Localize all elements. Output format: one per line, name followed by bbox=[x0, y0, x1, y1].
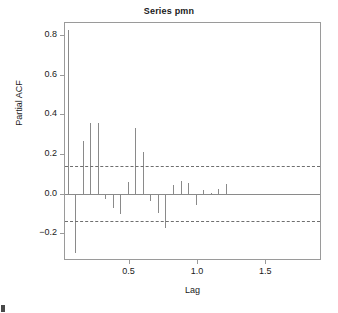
y-axis-tick-label: 0.6 bbox=[44, 69, 57, 79]
confidence-band-upper bbox=[65, 166, 320, 167]
page-corner-artifact bbox=[1, 305, 5, 312]
pacf-spike bbox=[196, 194, 197, 206]
chart-title: Series pmn bbox=[0, 6, 338, 16]
zero-baseline bbox=[65, 194, 320, 195]
x-axis-tick-mark bbox=[197, 260, 198, 264]
x-axis-label: Lag bbox=[64, 285, 321, 295]
pacf-spike bbox=[98, 123, 99, 193]
pacf-spike bbox=[203, 190, 204, 194]
pacf-spike bbox=[226, 184, 227, 194]
y-axis-tick-label: 0.8 bbox=[44, 29, 57, 39]
pacf-chart-figure: Series pmn Partial ACF Lag 0.80.60.40.20… bbox=[0, 0, 338, 313]
pacf-spike bbox=[165, 194, 166, 229]
pacf-spike bbox=[113, 194, 114, 209]
pacf-spike bbox=[75, 194, 76, 253]
pacf-spike bbox=[218, 189, 219, 194]
confidence-band-lower bbox=[65, 221, 320, 222]
y-axis-tick-label: 0.4 bbox=[44, 108, 57, 118]
x-axis-tick-label: 1.5 bbox=[250, 266, 280, 276]
pacf-spike bbox=[188, 183, 189, 194]
pacf-spike bbox=[120, 194, 121, 215]
x-axis-tick-label: 0.5 bbox=[114, 266, 144, 276]
y-axis-label: Partial ACF bbox=[14, 48, 24, 158]
pacf-spike bbox=[143, 152, 144, 194]
pacf-spike bbox=[135, 128, 136, 193]
y-axis-tick-label: 0.0 bbox=[44, 188, 57, 198]
pacf-spike bbox=[158, 194, 159, 214]
pacf-spike bbox=[173, 185, 174, 194]
plot-area bbox=[64, 22, 321, 260]
x-axis-tick-mark bbox=[265, 260, 266, 264]
pacf-spike bbox=[128, 182, 129, 194]
pacf-spike bbox=[181, 181, 182, 194]
pacf-spike bbox=[83, 141, 84, 194]
y-axis-tick-label: −0.2 bbox=[39, 227, 57, 237]
pacf-spike bbox=[90, 123, 91, 193]
x-axis-tick-label: 1.0 bbox=[182, 266, 212, 276]
pacf-spike bbox=[68, 30, 69, 194]
y-axis-tick-label: 0.2 bbox=[44, 148, 57, 158]
x-axis-tick-mark bbox=[129, 260, 130, 264]
